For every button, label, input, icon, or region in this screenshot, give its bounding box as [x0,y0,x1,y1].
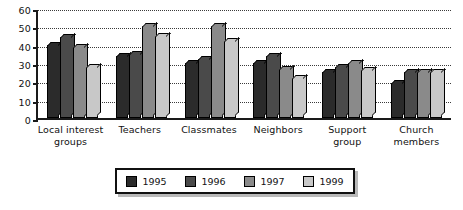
bar-1995[interactable] [322,72,334,118]
bar-slot [155,36,167,119]
chart-legend: 1995199619971999 [115,168,355,194]
y-axis-tick-label: 10 [19,96,32,107]
bar-slot [116,56,128,118]
bar-slot [142,26,154,118]
bar-1997[interactable] [348,63,360,118]
bar-slot [224,41,236,118]
bar-slot [86,67,98,118]
bar-1995[interactable] [116,56,128,118]
bar-groups [38,10,451,118]
bar-slot [391,83,403,118]
bar-slot [335,67,347,118]
bar-slot [60,37,72,118]
bar-1996[interactable] [335,67,347,118]
y-axis-tick-label: 20 [19,78,32,89]
bar-group [382,10,451,118]
bar-1995[interactable] [253,63,265,118]
legend-swatch [185,176,196,187]
bar-1996[interactable] [266,56,278,118]
legend-swatch [244,176,255,187]
bar-slot [279,69,291,119]
bar-1997[interactable] [142,26,154,118]
x-axis-label: Neighbors [244,124,313,147]
bar-slot [129,54,141,118]
legend-item-1997[interactable]: 1997 [244,176,284,187]
y-axis-tick [33,120,38,122]
bar-1999[interactable] [430,72,442,118]
bar-slot [322,72,334,118]
bar-1996[interactable] [129,54,141,118]
legend-swatch [126,176,137,187]
bar-slot [73,47,85,119]
chart-container: 0102030405060 Local interest groupsTeach… [0,0,463,210]
legend-label: 1997 [260,176,284,187]
bar-slot [185,63,197,118]
x-axis-labels: Local interest groupsTeachersClassmatesN… [36,124,451,147]
x-axis-label: Support group [313,124,382,147]
bar-1997[interactable] [279,69,291,119]
bar-1996[interactable] [198,59,210,118]
bar-1995[interactable] [391,83,403,118]
bar-1999[interactable] [224,41,236,118]
bar-slot [404,72,416,118]
bar-group [244,10,313,118]
bar-slot [348,63,360,118]
bar-1997[interactable] [211,26,223,118]
bar-slot [198,59,210,118]
bar-slot [266,56,278,118]
x-axis-label: Classmates [174,124,243,147]
bar-group [313,10,382,118]
bar-slot [211,26,223,118]
x-axis-label: Local interest groups [36,124,105,147]
bar-side-face [166,32,170,117]
bar-1996[interactable] [404,72,416,118]
bar-side-face [303,74,307,116]
bar-1995[interactable] [185,63,197,118]
legend-label: 1996 [201,176,225,187]
bar-group [107,10,176,118]
legend-item-1995[interactable]: 1995 [126,176,166,187]
y-axis-tick-label: 60 [19,5,32,16]
bar-slot [292,78,304,118]
x-axis-label: Teachers [105,124,174,147]
bar-1999[interactable] [155,36,167,119]
y-axis-tick-label: 0 [25,115,31,126]
y-axis-tick-label: 40 [19,41,32,52]
bar-1999[interactable] [292,78,304,118]
bar-side-face [372,66,376,116]
bar-slot [417,72,429,118]
bar-1996[interactable] [60,37,72,118]
bar-1997[interactable] [73,47,85,119]
bar-slot [47,45,59,118]
legend-label: 1995 [142,176,166,187]
legend-item-1996[interactable]: 1996 [185,176,225,187]
x-axis-label: Church members [382,124,451,147]
plot-area: 0102030405060 [36,10,451,120]
legend-label: 1999 [319,176,343,187]
bar-group [38,10,107,118]
bar-1999[interactable] [361,70,373,118]
bar-slot [361,70,373,118]
bar-side-face [235,37,239,116]
bar-side-face [97,63,101,116]
bar-1999[interactable] [86,67,98,118]
legend-item-1999[interactable]: 1999 [303,176,343,187]
y-axis-tick-label: 50 [19,23,32,34]
bar-group [176,10,245,118]
y-axis-tick-label: 30 [19,60,32,71]
bar-1997[interactable] [417,72,429,118]
legend-swatch [303,176,314,187]
bar-slot [430,72,442,118]
bar-1995[interactable] [47,45,59,118]
bar-side-face [441,68,445,116]
bar-slot [253,63,265,118]
